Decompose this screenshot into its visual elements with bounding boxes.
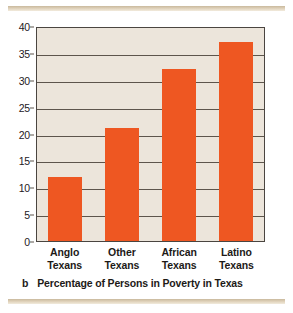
- bar-slot: [207, 28, 264, 241]
- caption-text: Percentage of Persons in Poverty in Texa…: [37, 277, 243, 289]
- category-label: AngloTexans: [36, 246, 93, 271]
- bar[interactable]: [105, 128, 139, 241]
- bars-group: [37, 28, 264, 241]
- category-label-line: Latino: [208, 246, 265, 259]
- y-axis: 0510152025303540: [0, 27, 34, 242]
- category-axis-labels: AngloTexansOtherTexansAfricanTexansLatin…: [36, 246, 265, 271]
- y-axis-tick-label: 35: [19, 48, 30, 60]
- panel-letter: b: [22, 277, 28, 289]
- y-axis-tick-mark: [30, 134, 34, 135]
- y-axis-tick-label: 40: [19, 21, 30, 33]
- category-label-line: Texans: [151, 259, 208, 272]
- bar-chart-plot-area: [36, 27, 265, 242]
- figure-caption: b Percentage of Persons in Poverty in Te…: [22, 277, 243, 289]
- bar[interactable]: [219, 42, 253, 241]
- category-label-line: Other: [93, 246, 150, 259]
- category-label-line: Texans: [36, 259, 93, 272]
- y-axis-tick-mark: [30, 107, 34, 108]
- bar-slot: [37, 28, 94, 241]
- y-axis-tick-mark: [30, 53, 34, 54]
- y-axis-tick-label: 30: [19, 75, 30, 87]
- category-label-line: Texans: [93, 259, 150, 272]
- top-divider-rule: [8, 6, 285, 11]
- category-label: AfricanTexans: [151, 246, 208, 271]
- category-label-line: Texans: [208, 259, 265, 272]
- category-label-line: Anglo: [36, 246, 93, 259]
- y-axis-tick-mark: [30, 215, 34, 216]
- y-axis-tick-label: 15: [19, 155, 30, 167]
- category-label: LatinoTexans: [208, 246, 265, 271]
- bar-slot: [94, 28, 151, 241]
- bar[interactable]: [48, 177, 82, 242]
- category-label: OtherTexans: [93, 246, 150, 271]
- y-axis-tick-mark: [30, 27, 34, 28]
- y-axis-tick-mark: [30, 80, 34, 81]
- y-axis-tick-mark: [30, 188, 34, 189]
- bar[interactable]: [162, 69, 196, 241]
- category-label-line: African: [151, 246, 208, 259]
- y-axis-tick-label: 10: [19, 182, 30, 194]
- y-axis-tick-mark: [30, 242, 34, 243]
- figure-panel: 0510152025303540 AngloTexansOtherTexansA…: [0, 0, 293, 313]
- bottom-divider-rule: [8, 299, 285, 304]
- y-axis-tick-mark: [30, 161, 34, 162]
- y-axis-tick-label: 20: [19, 129, 30, 141]
- y-axis-tick-label: 25: [19, 102, 30, 114]
- bar-slot: [151, 28, 208, 241]
